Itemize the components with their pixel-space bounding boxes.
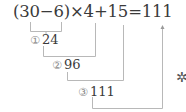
step-1-value: 24 bbox=[42, 32, 59, 47]
step-1-marker: ① bbox=[30, 34, 40, 47]
step-2-label: ②96 bbox=[52, 57, 80, 72]
step-3-marker: ③ bbox=[78, 86, 88, 99]
step-2-marker: ② bbox=[52, 59, 62, 72]
sparkle-icon: ✲ bbox=[176, 69, 186, 85]
step-3-value: 111 bbox=[90, 84, 115, 99]
step-2-value: 96 bbox=[64, 57, 81, 72]
arrow-head-icon bbox=[161, 25, 165, 29]
step-1-label: ①24 bbox=[30, 32, 58, 47]
step-3-label: ③111 bbox=[78, 84, 115, 99]
bracket-step-1 bbox=[31, 22, 62, 32]
